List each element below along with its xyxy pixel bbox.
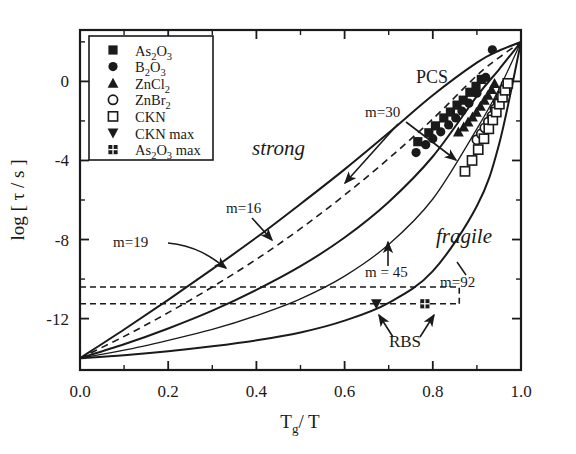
series-as2o3-max (420, 299, 429, 308)
data-point (451, 113, 460, 122)
x-tick-label: 0.8 (422, 382, 443, 401)
x-tick-label: 1.0 (510, 382, 531, 401)
x-tick-label: 0.4 (246, 382, 268, 401)
legend-label-sub1: 2 (166, 100, 171, 111)
legend-marker-filled-square (108, 45, 117, 54)
annotation-m92: m=92 (440, 274, 475, 290)
x-axis-title-main: T (280, 411, 292, 432)
data-point (467, 156, 476, 165)
legend-label: CKN (135, 109, 166, 125)
y-tick-label: 0 (61, 72, 70, 91)
y-axis-title-pre: log [ (7, 200, 28, 240)
data-point (481, 73, 490, 82)
legend-marker-open-circle (108, 95, 117, 104)
legend-label-tail: max (172, 142, 201, 158)
legend-label-main: ZnBr (135, 92, 166, 108)
leader-rbs-right (420, 315, 434, 337)
legend-label: CKN max (135, 126, 195, 142)
legend-label-main: ZnCl (135, 76, 165, 92)
x-tick-label: 0.0 (69, 382, 90, 401)
annotation-rbs: RBS (389, 332, 421, 351)
legend-label-main: As (135, 142, 151, 158)
legend-label-main: As (135, 43, 151, 59)
y-tick-label: -4 (55, 151, 70, 170)
angell-plot-svg: 0.00.20.40.60.81.0 0-4-8-12 Tg/ T log [ … (0, 0, 576, 454)
data-point (436, 127, 445, 136)
data-point (444, 120, 453, 129)
data-point (413, 137, 422, 146)
x-axis-title: Tg/ T (280, 411, 320, 436)
legend-marker-filled-circle (108, 62, 117, 71)
figure-canvas: 0.00.20.40.60.81.0 0-4-8-12 Tg/ T log [ … (0, 0, 576, 454)
annotation-fragile: fragile (436, 224, 492, 248)
annotation-m16: m=16 (226, 200, 262, 216)
annotation-m19: m=19 (113, 234, 148, 250)
y-axis-title: log [ τ / s ] (7, 160, 28, 241)
data-point (472, 89, 481, 98)
legend-label-mid: O (150, 59, 160, 75)
annotation-m45: m = 45 (365, 264, 408, 280)
data-point (411, 148, 420, 157)
y-tick-labels: 0-4-8-12 (46, 72, 69, 328)
x-axis-title-tail: / T (298, 411, 320, 432)
x-tick-label: 0.2 (158, 382, 179, 401)
data-point (488, 45, 497, 54)
legend-marker-open-square (108, 112, 117, 121)
legend-label-main: CKN (135, 109, 166, 125)
x-tick-label: 0.6 (334, 382, 355, 401)
data-point (484, 124, 493, 133)
y-tick-label: -12 (46, 310, 69, 329)
legend: As2O3B2O3ZnCl2ZnBr2CKNCKN maxAs2O3 max (89, 36, 213, 161)
annotation-pcs: PCS (416, 67, 448, 87)
annotation-m30: m=30 (365, 104, 400, 120)
data-point (457, 106, 466, 115)
legend-label-mid: O (156, 142, 166, 158)
data-point (474, 145, 483, 154)
data-point (464, 99, 473, 108)
legend-label-mid: O (156, 43, 166, 59)
annotation-strong: strong (252, 136, 305, 160)
x-tick-labels: 0.00.20.40.60.81.0 (69, 382, 531, 401)
y-axis-title-post: / s ] (7, 160, 28, 193)
data-point (421, 140, 430, 149)
data-point (503, 79, 512, 88)
data-point (460, 167, 469, 176)
y-tick-label: -8 (55, 231, 69, 250)
leader-m19 (168, 243, 226, 268)
legend-label-main: CKN max (135, 126, 195, 142)
leader-m30-lower (345, 124, 398, 183)
legend-label-main: B (135, 59, 145, 75)
legend-label-sub2: 3 (167, 51, 172, 62)
data-point (479, 134, 488, 143)
